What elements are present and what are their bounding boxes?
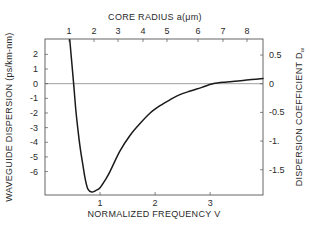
top-axis-ticks: 12345678: [66, 26, 249, 42]
plot-frame: [45, 39, 263, 195]
right-axis-label-main: DISPERSION COEFFICIENT D: [294, 52, 304, 186]
right-axis-label-subscript: w: [299, 47, 305, 53]
top-tick-label: 2: [91, 26, 96, 36]
right-tick-label: 0.5: [269, 50, 282, 60]
left-tick-label: 2: [33, 49, 38, 59]
dispersion-curve: [70, 40, 263, 192]
top-tick-label: 8: [244, 26, 249, 36]
bottom-tick-label: 2: [153, 198, 158, 208]
dispersion-chart: 210-1-2-3-4-5-6 0.50-0.5-1.-1.5 123 1234…: [0, 0, 311, 229]
left-tick-label: -5: [30, 152, 38, 162]
top-tick-label: 4: [140, 26, 145, 36]
left-tick-label: 1: [33, 64, 38, 74]
right-tick-label: -0.5: [269, 107, 285, 117]
top-tick-label: 1: [66, 26, 71, 36]
top-axis-label: CORE RADIUS a(μm): [108, 12, 202, 22]
top-tick-label: 7: [220, 26, 225, 36]
top-tick-label: 3: [115, 26, 120, 36]
top-tick-label: 5: [164, 26, 169, 36]
left-tick-label: 0: [33, 79, 38, 89]
left-tick-label: -6: [30, 167, 38, 177]
right-axis-ticks: 0.50-0.5-1.-1.5: [260, 50, 285, 175]
left-tick-label: -2: [30, 108, 38, 118]
right-tick-label: 0: [269, 79, 274, 89]
bottom-axis-ticks: 123: [98, 192, 213, 208]
right-axis-label: DISPERSION COEFFICIENT Dw: [294, 47, 305, 186]
bottom-tick-label: 1: [98, 198, 103, 208]
left-tick-label: -3: [30, 123, 38, 133]
top-tick-label: 6: [195, 26, 200, 36]
left-tick-label: -1: [30, 93, 38, 103]
bottom-axis-label: NORMALIZED FREQUENCY V: [88, 209, 221, 219]
right-tick-label: -1.: [269, 136, 280, 146]
right-tick-label: -1.5: [269, 165, 285, 175]
left-tick-label: -4: [30, 137, 38, 147]
left-axis-label: WAVEGUIDE DISPERSION (ps/km-nm): [4, 32, 14, 201]
bottom-tick-label: 3: [208, 198, 213, 208]
